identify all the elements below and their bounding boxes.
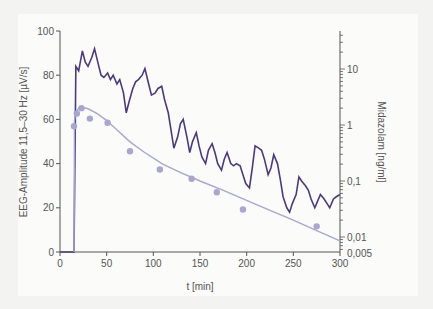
y-tick-label: 100 xyxy=(37,26,54,37)
x-tick-label: 300 xyxy=(332,258,349,269)
y2-axis-title: Midazolam [ng/ml] xyxy=(376,101,387,182)
y2-tick-label: 10 xyxy=(347,64,359,75)
y2-tick-label: 1 xyxy=(347,120,353,131)
y-tick-label: 40 xyxy=(43,158,55,169)
midazolam-data-point xyxy=(127,148,133,154)
y-tick-label: 60 xyxy=(43,114,55,125)
x-tick-label: 100 xyxy=(145,258,162,269)
midazolam-data-point xyxy=(87,115,93,121)
x-tick-label: 150 xyxy=(192,258,209,269)
midazolam-data-point xyxy=(157,166,163,172)
y2-tick-label: 0,1 xyxy=(347,176,361,187)
midazolam-data-point xyxy=(240,206,246,212)
x-tick-label: 50 xyxy=(101,258,113,269)
x-tick-label: 200 xyxy=(238,258,255,269)
plot-area xyxy=(60,49,340,252)
x-tick-label: 0 xyxy=(57,258,63,269)
x-tick-label: 250 xyxy=(285,258,302,269)
y-tick-label: 20 xyxy=(43,202,55,213)
midazolam-data-point xyxy=(214,189,220,195)
x-axis-title: t [min] xyxy=(186,281,213,292)
midazolam-data-point xyxy=(313,223,319,229)
y-tick-label: 0 xyxy=(48,247,54,258)
y2-tick-label: 0,01 xyxy=(347,232,367,243)
y2-tick-label: 0,005 xyxy=(347,248,372,259)
y-tick-label: 80 xyxy=(43,70,55,81)
eeg-midazolam-chart: 0204060801000501001502002503001010,10,01… xyxy=(0,0,433,309)
y-axis-title: EEG-Amplitude 11,5–30 Hz [µV/s] xyxy=(18,66,29,217)
